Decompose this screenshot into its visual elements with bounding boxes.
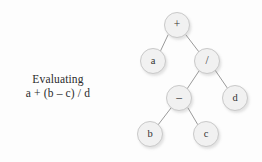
tree-edge-minus-b (158, 108, 171, 125)
tree-edge-root-divide (186, 35, 199, 52)
tree-node-d: d (222, 85, 248, 111)
tree-edge-group (158, 35, 228, 125)
tree-node-root: + (164, 12, 190, 38)
tree-node-b: b (137, 121, 163, 147)
tree-node-label: – (176, 92, 182, 104)
tree-node-label: a (151, 56, 156, 67)
tree-edge-minus-c (188, 108, 198, 125)
tree-node-label: b (147, 129, 152, 140)
tree-node-label: + (174, 19, 181, 31)
tree-edges-layer (0, 0, 262, 162)
tree-node-minus: – (166, 85, 192, 111)
tree-node-label: c (204, 129, 209, 140)
tree-node-divide: / (194, 48, 220, 74)
tree-edge-divide-d (215, 70, 228, 89)
tree-node-a: a (140, 48, 166, 74)
tree-edge-root-a (160, 35, 168, 52)
expression-tree-figure: Evaluating a + (b – c) / d +a/–dbc (0, 0, 262, 162)
tree-edge-divide-minus (187, 71, 199, 89)
tree-node-label: / (205, 55, 208, 67)
tree-node-label: d (232, 93, 237, 104)
tree-node-c: c (193, 121, 219, 147)
